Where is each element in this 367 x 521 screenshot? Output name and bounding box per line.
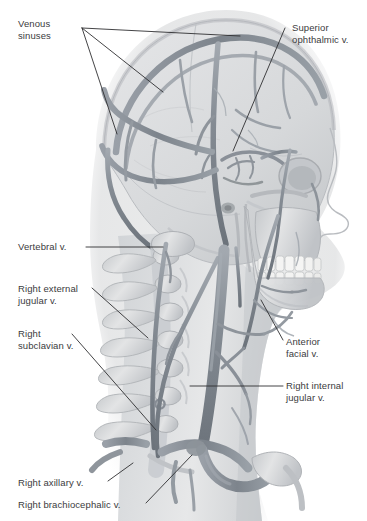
label-venous-sinuses: Venous sinuses [18, 18, 51, 41]
label-anterior-facial: Anterior facial v. [286, 336, 320, 359]
upper-teeth [258, 256, 321, 271]
label-right-subclavian: Right subclavian v. [18, 328, 74, 351]
label-superior-ophthalmic: Superior ophthalmic v. [292, 22, 349, 45]
label-vertebral: Vertebral v. [18, 241, 67, 253]
label-right-brachiocephalic: Right brachiocephalic v. [18, 499, 121, 511]
illustration-canvas [0, 0, 367, 521]
anatomical-figure: Venous sinusesSuperior ophthalmic v.Vert… [0, 0, 367, 521]
label-right-internal-jugular: Right internal jugular v. [286, 380, 343, 403]
label-right-external-jugular: Right external jugular v. [18, 283, 78, 306]
label-right-axillary: Right axillary v. [18, 477, 83, 489]
